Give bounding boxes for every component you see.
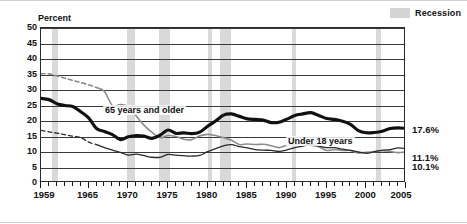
end-label-65-and-older: 10.1% xyxy=(412,161,439,172)
x-tick xyxy=(318,182,319,186)
x-tick xyxy=(80,182,81,186)
y-tick-label: 10 xyxy=(1,147,37,156)
x-tick-label: 1965 xyxy=(77,189,98,200)
x-tick xyxy=(167,182,168,188)
y-tick-label: 5 xyxy=(1,163,37,172)
x-tick xyxy=(373,182,374,186)
x-tick xyxy=(191,182,192,186)
series-label-under-18: Under 18 years xyxy=(286,136,355,146)
y-tick-label: 50 xyxy=(1,23,37,32)
x-tick-label: 2005 xyxy=(390,189,411,200)
x-tick xyxy=(381,182,382,186)
x-tick xyxy=(365,182,366,188)
x-tick xyxy=(334,182,335,186)
x-tick xyxy=(270,182,271,186)
x-tick xyxy=(72,182,73,186)
x-tick xyxy=(111,182,112,186)
x-tick xyxy=(342,182,343,186)
legend-label-recession: Recession xyxy=(415,8,461,18)
x-tick xyxy=(397,182,398,186)
x-tick xyxy=(278,182,279,186)
x-tick xyxy=(302,182,303,186)
x-tick-label: 1980 xyxy=(196,189,217,200)
x-tick xyxy=(326,182,327,188)
x-tick xyxy=(389,182,390,186)
y-axis-title: Percent xyxy=(38,13,71,23)
x-tick xyxy=(207,182,208,188)
x-tick-label: 1995 xyxy=(315,189,336,200)
x-tick xyxy=(183,182,184,186)
x-tick xyxy=(199,182,200,186)
x-tick xyxy=(48,182,49,186)
x-tick xyxy=(103,182,104,186)
y-tick-label: 30 xyxy=(1,85,37,94)
x-tick xyxy=(215,182,216,186)
poverty-rate-chart: Recession Percent 05101520253035404550 6… xyxy=(0,0,467,224)
series-line-dashed-segment xyxy=(41,74,97,88)
x-tick xyxy=(310,182,311,186)
end-label-under-18: 17.6% xyxy=(412,124,439,135)
x-tick xyxy=(238,182,239,186)
x-tick xyxy=(88,182,89,188)
y-tick-label: 40 xyxy=(1,54,37,63)
x-tick xyxy=(223,182,224,186)
x-tick xyxy=(357,182,358,186)
y-tick-label: 45 xyxy=(1,39,37,48)
y-tick-label: 35 xyxy=(1,70,37,79)
chart-legend: Recession xyxy=(390,7,461,19)
x-tick-label: 1990 xyxy=(275,189,296,200)
x-tick xyxy=(135,182,136,186)
y-tick-label: 20 xyxy=(1,116,37,125)
x-tick-label: 1985 xyxy=(236,189,257,200)
x-tick xyxy=(262,182,263,186)
x-tick-label: 1975 xyxy=(156,189,177,200)
x-tick xyxy=(254,182,255,186)
x-tick-label: 2000 xyxy=(355,189,376,200)
x-tick xyxy=(64,182,65,186)
x-tick xyxy=(405,182,406,188)
series-label-65-and-older: 65 years and older xyxy=(103,105,186,115)
x-tick xyxy=(40,182,41,188)
x-tick xyxy=(119,182,120,186)
x-tick-label: 1970 xyxy=(117,189,138,200)
x-tick xyxy=(127,182,128,188)
x-tick xyxy=(349,182,350,186)
x-tick xyxy=(294,182,295,186)
recession-swatch xyxy=(390,8,410,18)
x-tick xyxy=(175,182,176,186)
x-tick xyxy=(246,182,247,188)
x-tick xyxy=(230,182,231,186)
plot-area: 65 years and older Under 18 years 18 to … xyxy=(40,27,405,182)
x-tick xyxy=(159,182,160,186)
x-axis-ticks xyxy=(40,182,405,188)
series-line xyxy=(97,145,405,158)
y-tick-label: 15 xyxy=(1,132,37,141)
series-line xyxy=(41,98,405,139)
x-tick xyxy=(151,182,152,186)
x-tick xyxy=(143,182,144,186)
x-axis-tick-labels: 1959196519701975198019851990199520002005 xyxy=(0,189,467,203)
x-tick xyxy=(96,182,97,186)
series-lines xyxy=(41,28,405,182)
scan-rule-bottom xyxy=(0,222,467,223)
scan-rule-top xyxy=(0,0,467,1)
y-tick-label: 25 xyxy=(1,101,37,110)
y-tick-label: 0 xyxy=(1,178,37,187)
x-tick xyxy=(56,182,57,186)
x-tick-label: 1959 xyxy=(33,189,54,200)
series-line-dashed-segment xyxy=(41,130,97,144)
x-tick xyxy=(286,182,287,188)
